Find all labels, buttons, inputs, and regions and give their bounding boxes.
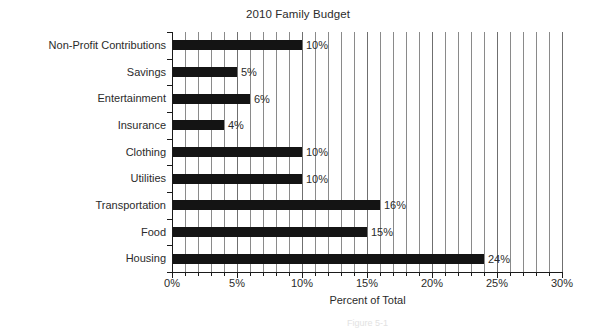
x-tick xyxy=(471,272,472,276)
y-tick xyxy=(167,165,172,166)
bar xyxy=(172,120,224,130)
bar-series: 10%5%6%4%10%10%16%15%24% xyxy=(172,32,562,272)
x-tick xyxy=(510,272,511,276)
x-tick xyxy=(458,272,459,276)
x-tick xyxy=(276,272,277,276)
x-axis-title: Percent of Total xyxy=(172,294,563,306)
x-tick-label: 15% xyxy=(356,277,378,289)
x-tick-label: 30% xyxy=(551,277,573,289)
x-tick xyxy=(354,272,355,276)
x-tick xyxy=(523,272,524,276)
plot-area: 10%5%6%4%10%10%16%15%24% xyxy=(172,32,562,272)
category-label: Entertainment xyxy=(98,92,166,105)
x-tick xyxy=(315,272,316,276)
bar xyxy=(172,67,237,77)
y-axis-line xyxy=(172,32,173,273)
bar xyxy=(172,227,367,237)
category-label: Clothing xyxy=(126,146,166,159)
x-tick xyxy=(419,272,420,276)
y-tick xyxy=(167,85,172,86)
bar-value-label: 5% xyxy=(241,66,257,78)
x-tick-label: 0% xyxy=(164,277,180,289)
bar-value-label: 10% xyxy=(306,173,328,185)
category-label: Housing xyxy=(126,252,166,265)
x-tick xyxy=(341,272,342,276)
bar xyxy=(172,200,380,210)
x-tick xyxy=(549,272,550,276)
category-label: Utilities xyxy=(131,172,166,185)
x-tick xyxy=(250,272,251,276)
bar-value-label: 24% xyxy=(488,253,510,265)
y-tick xyxy=(167,245,172,246)
bar-value-label: 10% xyxy=(306,146,328,158)
category-label: Insurance xyxy=(118,119,166,132)
bar xyxy=(172,174,302,184)
chart-title: 2010 Family Budget xyxy=(34,8,562,20)
bar-value-label: 16% xyxy=(384,199,406,211)
x-tick xyxy=(484,272,485,276)
x-tick xyxy=(328,272,329,276)
x-tick xyxy=(263,272,264,276)
bar-value-label: 15% xyxy=(371,226,393,238)
x-tick xyxy=(393,272,394,276)
y-tick xyxy=(167,59,172,60)
bar xyxy=(172,147,302,157)
bar xyxy=(172,254,484,264)
bar-value-label: 6% xyxy=(254,93,270,105)
y-tick xyxy=(167,219,172,220)
y-tick xyxy=(167,112,172,113)
x-tick-label: 10% xyxy=(291,277,313,289)
x-tick xyxy=(380,272,381,276)
y-tick xyxy=(167,32,172,33)
x-tick xyxy=(198,272,199,276)
y-tick xyxy=(167,192,172,193)
x-tick-label: 25% xyxy=(486,277,508,289)
figure-caption: Figure 5-1 xyxy=(172,318,563,328)
category-label: Food xyxy=(141,226,166,239)
x-tick xyxy=(536,272,537,276)
y-tick xyxy=(167,139,172,140)
x-tick xyxy=(406,272,407,276)
bar xyxy=(172,94,250,104)
x-tick xyxy=(445,272,446,276)
category-label: Transportation xyxy=(95,199,166,212)
y-axis-category-labels: Non-Profit ContributionsSavingsEntertain… xyxy=(0,32,166,272)
gridline xyxy=(562,32,563,272)
y-tick xyxy=(167,272,172,273)
category-label: Savings xyxy=(127,66,166,79)
x-tick xyxy=(185,272,186,276)
x-tick-label: 20% xyxy=(421,277,443,289)
bar xyxy=(172,40,302,50)
x-tick xyxy=(211,272,212,276)
bar-value-label: 4% xyxy=(228,119,244,131)
x-tick-label: 5% xyxy=(229,277,245,289)
x-tick xyxy=(289,272,290,276)
category-label: Non-Profit Contributions xyxy=(49,39,166,52)
x-tick xyxy=(224,272,225,276)
bar-value-label: 10% xyxy=(306,39,328,51)
